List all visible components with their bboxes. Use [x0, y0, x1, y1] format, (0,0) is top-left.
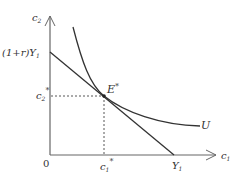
indifference-curve-label: U — [201, 119, 211, 132]
consumption-diagram: c2 (1+r)Y1 c2* E* 0 c1* Y1 c1 U — [0, 0, 238, 182]
x-intercept-label: Y1 — [172, 160, 182, 172]
y-intercept-label: (1+r)Y1 — [2, 47, 40, 59]
y-axis-label: c2 — [32, 12, 42, 24]
x-axis-label: c1 — [221, 150, 230, 162]
origin-label: 0 — [43, 158, 49, 169]
equilibrium-point — [102, 94, 106, 98]
indifference-curve — [73, 27, 200, 126]
budget-line — [50, 52, 174, 155]
c2-star-label: c2* — [36, 86, 49, 102]
equilibrium-label: E* — [106, 82, 119, 96]
c1-star-label: c1* — [100, 157, 113, 173]
